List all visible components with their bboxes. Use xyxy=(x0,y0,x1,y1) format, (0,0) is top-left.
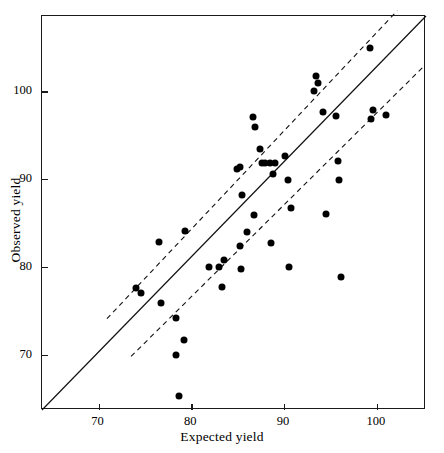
x-tick-label: 90 xyxy=(263,414,303,429)
data-point xyxy=(176,392,183,399)
y-tick-label: 80 xyxy=(0,258,32,273)
y-tick xyxy=(42,267,48,268)
data-point xyxy=(256,145,263,152)
data-point xyxy=(239,192,246,199)
x-tick-label: 100 xyxy=(356,414,396,429)
data-point xyxy=(370,106,377,113)
x-tick-label: 80 xyxy=(170,414,210,429)
data-point xyxy=(269,170,276,177)
data-point xyxy=(367,44,374,51)
data-point xyxy=(315,79,322,86)
data-point xyxy=(155,238,162,245)
y-tick xyxy=(42,91,48,92)
x-tick xyxy=(191,404,192,410)
y-tick xyxy=(42,355,48,356)
data-point xyxy=(252,123,259,130)
data-point xyxy=(271,160,278,167)
x-tick xyxy=(284,404,285,410)
data-point xyxy=(180,336,187,343)
y-tick xyxy=(42,179,48,180)
data-point xyxy=(368,115,375,122)
data-point xyxy=(251,212,258,219)
x-axis-title: Expected yield xyxy=(0,429,444,445)
data-point xyxy=(322,211,329,218)
data-point xyxy=(138,290,145,297)
data-point xyxy=(238,265,245,272)
data-point xyxy=(333,113,340,120)
data-point xyxy=(243,228,250,235)
data-point xyxy=(172,314,179,321)
data-point xyxy=(337,274,344,281)
data-point xyxy=(218,284,225,291)
y-tick-label: 90 xyxy=(0,171,32,186)
y-tick-label: 70 xyxy=(0,346,32,361)
data-point xyxy=(181,227,188,234)
data-point xyxy=(216,263,223,270)
scatter-figure: Observed yield 708090100 708090100 Expec… xyxy=(0,0,444,453)
data-point xyxy=(287,205,294,212)
x-tick-label: 70 xyxy=(78,414,118,429)
data-point xyxy=(312,72,319,79)
data-point xyxy=(335,177,342,184)
x-tick xyxy=(99,404,100,410)
data-point xyxy=(320,108,327,115)
data-point xyxy=(310,88,317,95)
data-point xyxy=(285,263,292,270)
data-point xyxy=(268,240,275,247)
data-point xyxy=(205,263,212,270)
data-point xyxy=(383,112,390,119)
data-point xyxy=(237,163,244,170)
data-point xyxy=(334,157,341,164)
y-tick-label: 100 xyxy=(0,83,32,98)
data-point xyxy=(249,113,256,120)
data-points-layer xyxy=(42,16,426,410)
data-point xyxy=(284,177,291,184)
data-point xyxy=(173,351,180,358)
data-point xyxy=(282,152,289,159)
data-point xyxy=(236,242,243,249)
x-tick xyxy=(377,404,378,410)
data-point xyxy=(220,256,227,263)
plot-area xyxy=(41,15,425,409)
data-point xyxy=(157,299,164,306)
